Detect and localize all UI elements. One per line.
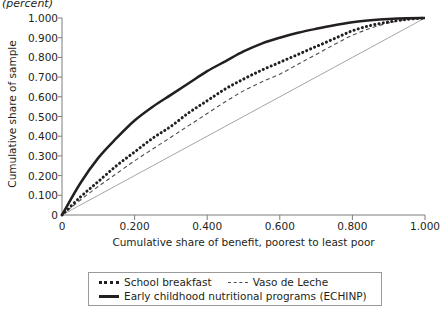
equality-diagonal-line [62, 18, 425, 215]
legend-item-echinp: Early childhood nutritional programs (EC… [99, 290, 367, 302]
dashed-line-icon [228, 282, 248, 283]
legend: School breakfast Vaso de Leche Early chi… [88, 272, 382, 306]
legend-item-vaso-de-leche: Vaso de Leche [228, 276, 329, 288]
series-paths [62, 18, 425, 215]
chart-figure: (percent) Cumulative share of sample 00.… [0, 0, 445, 309]
solid-line-icon [99, 295, 119, 298]
legend-label: Vaso de Leche [253, 276, 329, 288]
legend-label: School breakfast [124, 276, 212, 288]
legend-label: Early childhood nutritional programs (EC… [124, 290, 367, 302]
dotted-line-icon [99, 281, 119, 284]
legend-item-school-breakfast: School breakfast [99, 276, 212, 288]
plot-area [0, 0, 445, 309]
